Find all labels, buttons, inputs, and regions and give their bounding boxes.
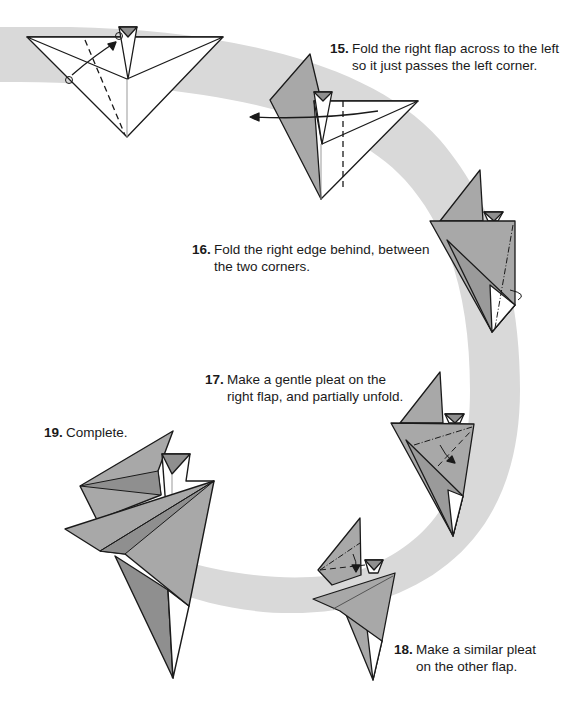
step-19-instruction: 19.Complete. [44, 424, 128, 441]
step-15-instruction: 15.Fold the right flap across to the lef… [330, 40, 559, 74]
step-number: 18. [394, 641, 416, 658]
step-text-line: Complete. [66, 425, 128, 440]
step-17-instruction: 17.Make a gentle pleat on the right flap… [205, 371, 403, 405]
step-text-line: so it just passes the left corner. [330, 57, 559, 74]
step-number: 17. [205, 371, 227, 388]
step-number: 19. [44, 424, 66, 441]
step-19-diagram [65, 431, 214, 678]
step-number: 16. [192, 241, 214, 258]
step-text-line: right flap, and partially unfold. [205, 388, 403, 405]
instruction-artwork [0, 0, 563, 719]
step-text-line: Make a gentle pleat on the [227, 372, 386, 387]
step-16-instruction: 16.Fold the right edge behind, between t… [192, 241, 429, 275]
step-text-line: the two corners. [192, 258, 429, 275]
origami-instructions-page: 15.Fold the right flap across to the lef… [0, 0, 563, 719]
step-text-line: Fold the right edge behind, between [214, 242, 429, 257]
step-number: 15. [330, 40, 352, 57]
step-text-line: Fold the right flap across to the left [352, 41, 559, 56]
step-18-instruction: 18.Make a similar pleat on the other fla… [394, 641, 536, 675]
step-text-line: Make a similar pleat [416, 642, 536, 657]
step-18-diagram [313, 518, 395, 680]
step-text-line: on the other flap. [394, 658, 536, 675]
